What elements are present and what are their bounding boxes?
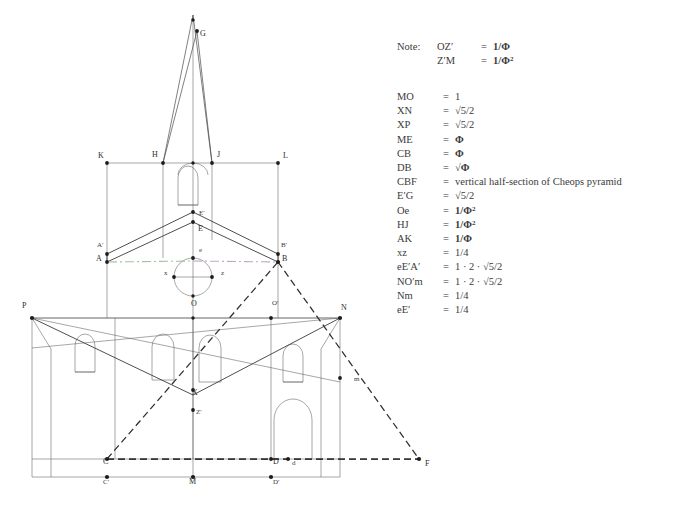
legend-row-lhs: Nm <box>397 290 413 301</box>
note-row-rhs: 1/Φ <box>493 41 510 52</box>
note-row-equals: = <box>481 55 487 66</box>
legend-row-rhs: 1 · 2 · √5/2 <box>455 261 502 272</box>
legend-row-equals: = <box>443 105 449 116</box>
point-label-m: m <box>354 375 360 383</box>
legend-row-3: ME=Φ <box>397 134 464 145</box>
legend-row-lhs: HJ <box>397 219 409 230</box>
legend-row-equals: = <box>443 233 449 244</box>
point-label-z: z <box>221 269 224 277</box>
note-row-rhs: 1/Φ2 <box>493 55 514 66</box>
point-label-L: L <box>283 151 288 160</box>
point-label-x: x <box>164 269 168 277</box>
legend-row-13: NO′m=1 · 2 · √5/2 <box>397 276 502 287</box>
note-label: Note: <box>397 41 420 52</box>
note-row-1: Z′M=1/Φ2 <box>437 55 514 66</box>
legend-row-12: eE′A′=1 · 2 · √5/2 <box>397 261 502 272</box>
legend-row-lhs: xz <box>397 247 407 258</box>
point-label-Ep: E′ <box>199 209 205 217</box>
legend-row-5: DB=√Φ <box>397 162 470 173</box>
note-row-exponent: 2 <box>510 55 514 63</box>
note-row-lhs: Z′M <box>437 55 456 66</box>
legend-row-15: eE′=1/4 <box>397 304 469 315</box>
point-label-F: F <box>425 459 430 468</box>
legend-row-equals: = <box>443 162 449 173</box>
legend-row-lhs: XP <box>397 119 411 130</box>
point-label-E: E <box>198 224 203 233</box>
legend-row-lhs: E′G <box>397 190 414 201</box>
legend-row-equals: = <box>443 290 449 301</box>
point-label-J: J <box>217 150 220 159</box>
note-row-lhs: OZ′ <box>437 41 453 52</box>
point-label-X: X <box>192 388 198 397</box>
point-label-Ap: A′ <box>97 241 104 249</box>
point-label-e: e <box>199 246 202 254</box>
legend-row-6: CBF=vertical half-section of Cheops pyra… <box>397 176 623 187</box>
point-label-P: P <box>22 301 27 310</box>
legend-row-equals: = <box>443 176 449 187</box>
legend-row-rhs: 1/Φ2 <box>455 219 476 230</box>
legend-row-11: xz=1/4 <box>397 247 469 258</box>
legend-row-9: HJ=1/Φ2 <box>397 219 476 230</box>
church-geometry-diagram: GKHJLE′EA′B′ABexzOO′PNmXZ′CDdFC′MD′ Note… <box>0 0 675 507</box>
legend-row-14: Nm=1/4 <box>397 290 469 301</box>
legend-row-2: XP=√5/2 <box>397 119 474 130</box>
legend-row-lhs: eE′ <box>397 304 410 315</box>
legend-row-rhs: 1/Φ <box>455 233 472 244</box>
legend-row-rhs: √5/2 <box>455 190 474 201</box>
node-dots <box>30 18 421 479</box>
point-label-K: K <box>98 151 104 160</box>
legend-row-equals: = <box>443 304 449 315</box>
legend-row-lhs: MO <box>397 91 414 102</box>
legend-row-rhs: 1/4 <box>455 247 469 258</box>
note-row-0: OZ′=1/Φ <box>437 41 510 52</box>
legend-row-equals: = <box>443 119 449 130</box>
legend-row-equals: = <box>443 261 449 272</box>
legend-row-rhs: √5/2 <box>455 119 474 130</box>
point-label-H: H <box>152 150 158 159</box>
point-label-d: d <box>292 459 296 467</box>
roof <box>107 212 278 262</box>
legend-row-lhs: AK <box>397 233 413 244</box>
legend-row-rhs: √5/2 <box>455 105 474 116</box>
legend-row-equals: = <box>443 205 449 216</box>
legend-row-7: E′G=√5/2 <box>397 190 474 201</box>
legend-row-rhs: vertical half-section of Cheops pyramid <box>455 176 623 187</box>
legend-block: Note:OZ′=1/ΦZ′M=1/Φ2MO=1XN=√5/2XP=√5/2ME… <box>397 41 623 315</box>
legend-row-rhs: Φ <box>455 148 464 159</box>
legend-row-10: AK=1/Φ <box>397 233 472 244</box>
golden-section-vee <box>32 318 340 395</box>
point-label-C: C <box>103 457 108 466</box>
legend-row-equals: = <box>443 148 449 159</box>
legend-row-equals: = <box>443 219 449 230</box>
point-label-Dp: D′ <box>273 478 280 486</box>
legend-row-exponent: 2 <box>472 219 476 227</box>
legend-row-rhs: √Φ <box>455 162 470 173</box>
point-label-Bp: B′ <box>281 241 288 249</box>
point-label-G: G <box>200 29 206 38</box>
legend-row-lhs: Oe <box>397 205 410 216</box>
point-label-N: N <box>341 303 347 312</box>
point-label-A: A <box>96 254 102 263</box>
legend-row-8: Oe=1/Φ2 <box>397 205 476 216</box>
legend-row-lhs: CBF <box>397 176 417 187</box>
legend-row-equals: = <box>443 134 449 145</box>
legend-row-equals: = <box>443 247 449 258</box>
legend-row-lhs: XN <box>397 105 413 116</box>
legend-row-rhs: 1/4 <box>455 304 469 315</box>
legend-row-lhs: NO′m <box>397 276 423 287</box>
note-row-equals: = <box>481 41 487 52</box>
legend-row-lhs: CB <box>397 148 411 159</box>
legend-row-exponent: 2 <box>472 205 476 213</box>
point-label-M: M <box>189 477 196 486</box>
nave-body <box>32 318 340 459</box>
legend-row-0: MO=1 <box>397 91 460 102</box>
point-label-D: D <box>273 457 279 466</box>
legend-row-rhs: 1 · 2 · √5/2 <box>455 276 502 287</box>
legend-row-equals: = <box>443 190 449 201</box>
point-labels: GKHJLE′EA′B′ABexzOO′PNmXZ′CDdFC′MD′ <box>22 29 430 486</box>
point-label-Cp: C′ <box>103 478 110 486</box>
legend-row-equals: = <box>443 91 449 102</box>
point-label-Op: O′ <box>272 299 279 307</box>
legend-row-equals: = <box>443 276 449 287</box>
point-label-Zp: Z′ <box>196 408 202 416</box>
